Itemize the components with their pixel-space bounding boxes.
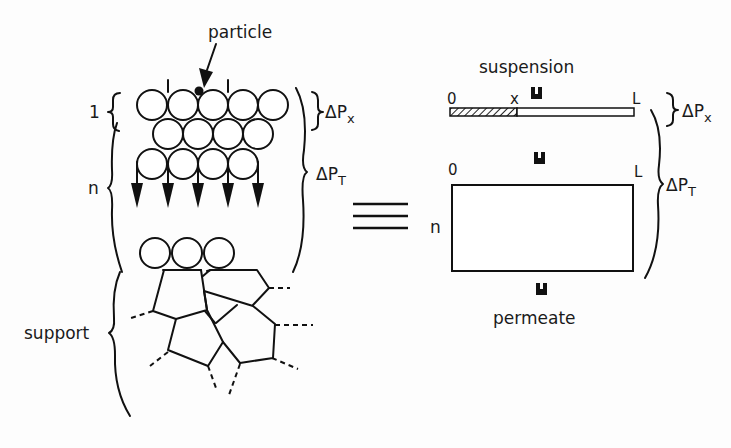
brace-delta-px-right [667,93,678,126]
bed-start-label: 0 [448,161,458,179]
bed-particle-circle [198,149,228,179]
delta-pt-right-label: ΔPT [666,175,696,199]
bed-particle-circle [243,119,273,149]
suspension-label: suspension [479,57,574,77]
brace-layer-n [108,123,122,272]
bed-particle-circle [153,119,183,149]
brace-delta-pt-right [645,110,663,278]
particle-pointer-arrow-icon [199,44,216,88]
equivalence-symbol [353,204,408,228]
cake-start-label: 0 [447,90,457,108]
diagram-svg: particle 1 [0,0,731,448]
bed-particle-circle [228,90,258,120]
bed-particle-circle [213,119,243,149]
bed-particle-circle [183,119,213,149]
delta-px-left-label: ΔPx [325,102,355,126]
support-mesh [153,270,275,366]
delta-pt-left-label: ΔPT [316,164,346,188]
bed-n-label: n [430,217,441,237]
outflow-arrow-icon [536,283,547,295]
cake-x-label: x [510,90,519,108]
support-label: support [24,323,90,343]
bed-particle-circle [137,149,167,179]
brace-delta-pt-left [293,88,307,272]
permeate-label: permeate [493,308,576,328]
bed-particle-circle [198,90,228,120]
brace-layer-one [108,93,120,131]
support-particle-circle [172,238,202,268]
filtration-model-diagram: particle 1 [0,0,731,448]
particle-label: particle [208,22,272,42]
bed-particle-circle [137,90,167,120]
inflow-arrow-bed-icon [534,152,545,164]
layer-one-label: 1 [89,102,100,122]
bed-particle-circle [258,90,288,120]
brace-delta-px-left [312,92,323,130]
bed-particle-circle [228,149,258,179]
layer-n-label: n [88,178,99,198]
bed-particle-circle [168,90,198,120]
cake-bar [450,108,634,116]
support-particle-circle [204,238,234,268]
bed-box [452,185,633,271]
cake-end-label: L [632,90,641,108]
inflow-arrow-icon [531,87,542,99]
delta-px-right-label: ΔPx [682,101,712,125]
packed-bed-particles [137,90,288,179]
bed-particle-circle [168,149,198,179]
support-layer-particles [140,238,234,268]
bed-end-label: L [634,163,643,181]
particle-dot-icon [195,87,204,96]
support-particle-circle [140,238,170,268]
brace-support [109,272,130,416]
